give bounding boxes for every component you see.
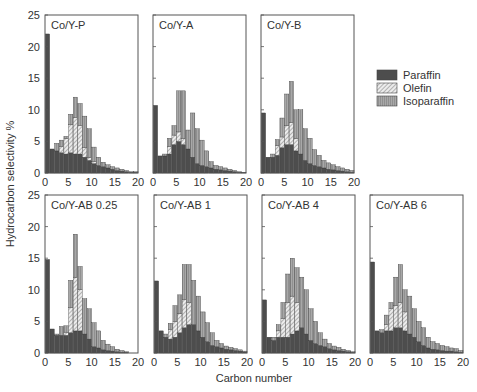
bar-paraffin — [289, 145, 293, 173]
legend-label-paraffin: Paraffin — [403, 69, 441, 81]
x-tick-label: 5 — [65, 176, 71, 188]
bar-paraffin — [153, 105, 157, 173]
bar-paraffin — [318, 345, 322, 353]
bar-isoparaffin — [96, 331, 100, 348]
bar-olefin — [92, 162, 96, 164]
bar-isoparaffin — [191, 113, 195, 157]
bar-paraffin — [303, 160, 307, 173]
bar-paraffin — [201, 337, 205, 353]
bar-olefin — [295, 302, 299, 330]
bar-olefin — [73, 117, 77, 154]
bar-olefin — [290, 296, 294, 334]
legend-swatch-paraffin — [377, 70, 397, 80]
bar-isoparaffin — [237, 172, 241, 173]
bar-isoparaffin — [289, 81, 293, 122]
bar-isoparaffin — [272, 337, 276, 340]
bar-paraffin — [69, 153, 73, 173]
bar-isoparaffin — [332, 346, 336, 350]
bar-isoparaffin — [341, 349, 345, 351]
x-tick-label: 0 — [258, 176, 264, 188]
bar-isoparaffin — [173, 306, 177, 322]
bar-paraffin — [196, 331, 200, 353]
bar-paraffin — [421, 345, 425, 353]
bar-isoparaffin — [317, 155, 321, 166]
bar-isoparaffin — [101, 162, 105, 166]
y-tick-label: 15 — [28, 252, 40, 264]
panel-co-y-p: 051015202505101520Co/Y-P — [28, 9, 144, 188]
bar-paraffin — [178, 333, 182, 353]
bar-paraffin — [164, 337, 168, 353]
bar-isoparaffin — [223, 168, 227, 171]
bar-olefin — [173, 321, 177, 337]
bar-olefin — [294, 138, 298, 151]
x-tick-label: 15 — [218, 356, 230, 368]
x-tick-label: 15 — [217, 176, 229, 188]
x-tick-label: 20 — [132, 176, 144, 188]
bar-paraffin — [275, 155, 279, 173]
bar-olefin — [59, 146, 63, 152]
bar-paraffin — [87, 160, 91, 173]
bar-olefin — [281, 318, 285, 337]
bar-isoparaffin — [445, 347, 449, 351]
bar-paraffin — [295, 331, 299, 353]
bar-isoparaffin — [238, 350, 242, 351]
panel-title: Co/Y-AB 0.25 — [51, 199, 117, 211]
bar-paraffin — [182, 328, 186, 353]
bar-isoparaffin — [177, 91, 181, 132]
bar-paraffin — [83, 334, 87, 353]
bar-paraffin — [55, 335, 59, 353]
x-tick-label: 0 — [151, 356, 157, 368]
bar-isoparaffin — [299, 110, 303, 154]
bar-isoparaffin — [276, 325, 280, 331]
bar-isoparaffin — [124, 352, 128, 353]
bar-isoparaffin — [78, 266, 82, 289]
y-tick-label: 15 — [28, 72, 40, 84]
bar-isoparaffin — [83, 299, 87, 334]
bar-paraffin — [417, 342, 421, 353]
bar-isoparaffin — [195, 129, 199, 164]
bar-olefin — [87, 157, 91, 160]
bar-isoparaffin — [106, 165, 110, 168]
bar-paraffin — [285, 145, 289, 173]
bar-paraffin — [78, 154, 82, 173]
bar-isoparaffin — [55, 143, 59, 151]
bar-isoparaffin — [398, 265, 402, 303]
bar-paraffin — [261, 113, 265, 173]
bar-paraffin — [59, 335, 63, 353]
bar-paraffin — [280, 148, 284, 173]
legend-label-olefin: Olefin — [403, 82, 432, 94]
x-tick-label: 0 — [259, 356, 265, 368]
bar-isoparaffin — [280, 118, 284, 137]
panel-title: Co/Y-AB 1 — [160, 199, 211, 211]
y-tick-label: 0 — [34, 167, 40, 179]
bar-isoparaffin — [96, 157, 100, 165]
bar-isoparaffin — [210, 333, 214, 346]
bar-paraffin — [172, 145, 176, 173]
x-tick-label: 15 — [109, 176, 121, 188]
bar-paraffin — [73, 331, 77, 353]
bar-paraffin — [286, 337, 290, 353]
bar-paraffin — [312, 165, 316, 173]
bar-paraffin — [110, 169, 114, 173]
bar-isoparaffin — [172, 126, 176, 135]
bar-paraffin — [300, 328, 304, 353]
bar-paraffin — [96, 348, 100, 353]
bar-isoparaffin — [205, 323, 209, 342]
x-tick-label: 0 — [42, 356, 48, 368]
bar-olefin — [178, 314, 182, 333]
bar-paraffin — [281, 337, 285, 353]
bar-paraffin — [290, 334, 294, 353]
bar-paraffin — [209, 168, 213, 173]
bar-paraffin — [294, 151, 298, 173]
bar-paraffin — [78, 331, 82, 353]
y-tick-label: 25 — [28, 9, 40, 21]
bar-isoparaffin — [110, 347, 114, 351]
bar-isoparaffin — [214, 165, 218, 169]
bar-paraffin — [50, 329, 54, 353]
bar-olefin — [403, 312, 407, 331]
panel-co-y-ab-4: 05101520Co/Y-AB 4 — [259, 195, 361, 368]
bar-isoparaffin — [313, 321, 317, 343]
bar-olefin — [398, 302, 402, 327]
bar-paraffin — [96, 165, 100, 173]
bar-isoparaffin — [384, 315, 388, 324]
